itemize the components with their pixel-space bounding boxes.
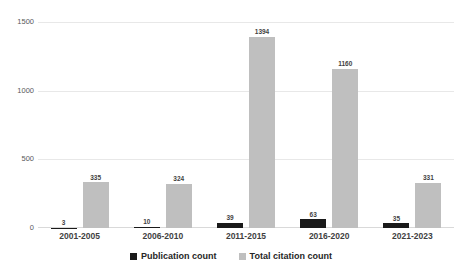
bar-total-citation-count[interactable]: 1394 [249,37,275,228]
bar-group-2001-2005: 3 335 [38,22,121,228]
bar-value-label: 324 [173,176,184,183]
bar-slot-citation: 331 [415,22,441,228]
bar-slot-publication: 35 [383,22,409,228]
x-axis-tick-2016-2020: 2016-2020 [288,232,371,241]
bar-slot-publication: 63 [300,22,326,228]
x-axis: 2001-2005 2006-2010 2011-2015 2016-2020 … [38,232,454,241]
bar-total-citation-count[interactable]: 335 [83,182,109,228]
legend-swatch-icon [239,253,246,260]
x-axis-tick-2021-2023: 2021-2023 [371,232,454,241]
bar-publication-count[interactable]: 35 [383,223,409,228]
bar-value-label: 35 [393,216,400,223]
bar-slot-citation: 1394 [249,22,275,228]
bar-value-label: 1394 [255,29,269,36]
bar-value-label: 3 [62,220,66,227]
bar-slot-citation: 1160 [332,22,358,228]
legend-label: Publication count [141,252,217,261]
x-axis-tick-2011-2015: 2011-2015 [204,232,287,241]
bar-group-2011-2015: 39 1394 [204,22,287,228]
bar-slot-publication: 10 [134,22,160,228]
bar-group-2006-2010: 10 324 [121,22,204,228]
bar-groups: 3 335 10 324 [38,22,454,228]
legend-item-total-citation-count[interactable]: Total citation count [239,252,332,261]
y-axis-tick-1000: 1000 [0,87,34,95]
bar-value-label: 39 [226,215,233,222]
bar-group-2021-2023: 35 331 [371,22,454,228]
bar-group-2016-2020: 63 1160 [288,22,371,228]
y-axis-tick-500: 500 [0,156,34,164]
bar-total-citation-count[interactable]: 1160 [332,69,358,228]
bar-value-label: 63 [310,212,317,219]
bar-chart: 1500 1000 500 0 3 335 [0,0,462,272]
bar-publication-count[interactable]: 63 [300,219,326,228]
x-axis-tick-2006-2010: 2006-2010 [121,232,204,241]
bar-slot-citation: 324 [166,22,192,228]
bar-slot-publication: 39 [217,22,243,228]
bar-total-citation-count[interactable]: 331 [415,183,441,229]
bar-value-label: 10 [143,219,150,226]
legend-item-publication-count[interactable]: Publication count [130,252,217,261]
bar-slot-citation: 335 [83,22,109,228]
chart-legend: Publication count Total citation count [0,252,462,261]
y-axis: 1500 1000 500 0 [0,22,34,228]
legend-label: Total citation count [250,252,332,261]
bar-publication-count[interactable]: 39 [217,223,243,228]
y-axis-tick-0: 0 [0,224,34,232]
y-axis-tick-1500: 1500 [0,18,34,26]
legend-swatch-icon [130,253,137,260]
bar-value-label: 335 [90,175,101,182]
bar-publication-count[interactable]: 10 [134,227,160,228]
bar-value-label: 331 [423,175,434,182]
bar-total-citation-count[interactable]: 324 [166,184,192,229]
bar-slot-publication: 3 [51,22,77,228]
bar-value-label: 1160 [338,61,352,68]
x-axis-tick-2001-2005: 2001-2005 [38,232,121,241]
